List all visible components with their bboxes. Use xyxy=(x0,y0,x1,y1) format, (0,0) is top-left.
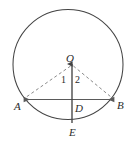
circle-geometry-figure: O A B D E 1 2 xyxy=(0,0,137,148)
label-angle-1: 1 xyxy=(61,75,66,85)
label-point-o: O xyxy=(66,53,74,64)
circle-outline xyxy=(13,10,123,120)
label-point-b: B xyxy=(117,100,124,111)
label-point-e: E xyxy=(69,127,76,138)
label-point-d: D xyxy=(75,103,83,114)
label-point-a: A xyxy=(14,101,21,112)
label-angle-2: 2 xyxy=(75,75,80,85)
